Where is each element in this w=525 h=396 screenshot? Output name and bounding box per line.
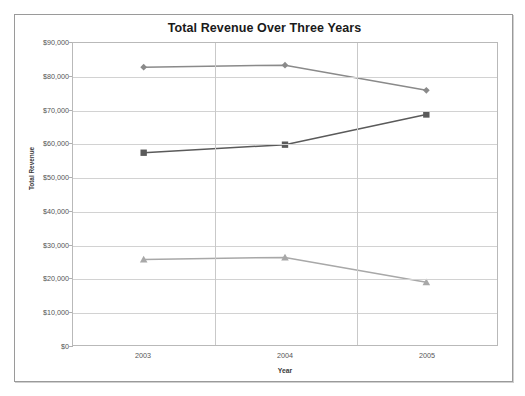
y-tick-label: $90,000: [17, 38, 69, 47]
y-tick-label: $10,000: [17, 308, 69, 317]
y-tick-mark: [69, 346, 73, 347]
gridline: [73, 111, 497, 112]
gridline: [73, 313, 497, 314]
category-divider: [357, 43, 358, 345]
x-tick-label: 2004: [245, 351, 325, 360]
y-tick-label: $30,000: [17, 240, 69, 249]
y-tick-label: $40,000: [17, 206, 69, 215]
gridline: [73, 212, 497, 213]
y-tick-label: $70,000: [17, 105, 69, 114]
x-tick-label: 2003: [103, 351, 183, 360]
x-axis-title: Year: [72, 367, 498, 374]
page-frame: Total Revenue Over Three Years Total Rev…: [14, 14, 513, 382]
series-lines: [73, 43, 497, 345]
y-tick-label: $50,000: [17, 173, 69, 182]
x-tick-label: 2005: [387, 351, 467, 360]
gridline: [73, 246, 497, 247]
gridline: [73, 77, 497, 78]
y-tick-label: $80,000: [17, 71, 69, 80]
data-point-diamond[interactable]: [423, 87, 430, 94]
data-point-diamond[interactable]: [140, 64, 147, 71]
data-point-square[interactable]: [423, 111, 429, 117]
data-point-diamond[interactable]: [282, 62, 289, 69]
y-tick-label: $60,000: [17, 139, 69, 148]
plot-area[interactable]: [72, 42, 498, 346]
gridline: [73, 178, 497, 179]
chart-object[interactable]: Total Revenue Over Three Years Total Rev…: [15, 15, 514, 383]
data-point-square[interactable]: [140, 150, 146, 156]
y-axis-tick-labels: $90,000$80,000$70,000$60,000$50,000$40,0…: [15, 42, 69, 346]
y-tick-label: $0: [17, 342, 69, 351]
gridline: [73, 279, 497, 280]
category-divider: [215, 43, 216, 345]
chart-title: Total Revenue Over Three Years: [15, 21, 514, 35]
y-tick-label: $20,000: [17, 274, 69, 283]
gridline: [73, 144, 497, 145]
